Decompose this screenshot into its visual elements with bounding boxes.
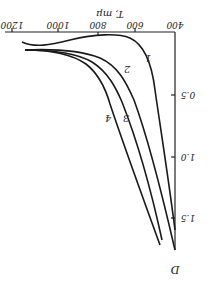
curve-label-4: 4 — [105, 113, 112, 124]
y-tick-1.0: 1.0 — [181, 152, 196, 162]
curve-label-1: 1 — [145, 53, 151, 64]
curve-4 — [25, 50, 160, 245]
curve-label-3: 3 — [123, 113, 129, 124]
curve-3 — [25, 50, 162, 240]
x-axis-label: T, mμ — [96, 9, 124, 20]
absorption-chart: T, mμ 1200 1000 800 600 400 0.5 1.0 1.5 … — [0, 0, 213, 283]
curves — [22, 35, 175, 250]
x-tick-800: 800 — [89, 20, 106, 30]
x-tick-600: 600 — [126, 20, 143, 30]
y-tick-1.5: 1.5 — [181, 213, 196, 223]
x-tick-400: 400 — [166, 20, 184, 30]
y-tick-0.5: 0.5 — [181, 90, 196, 100]
y-axis-label: D — [170, 263, 180, 276]
x-tick-1000: 1000 — [46, 20, 69, 30]
curve-label-2: 2 — [124, 64, 131, 75]
x-tick-1200: 1200 — [0, 20, 23, 30]
